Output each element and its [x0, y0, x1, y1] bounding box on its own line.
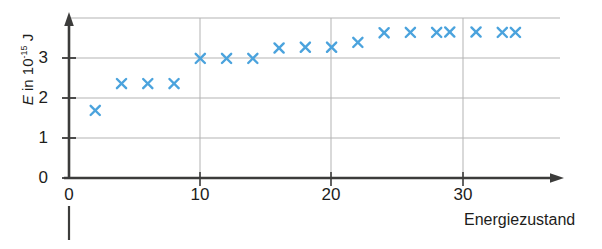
axes: [62, 12, 564, 240]
y-tick-label-0: 0: [28, 169, 48, 186]
data-point-markers: [91, 27, 520, 115]
data-point-marker: [91, 106, 100, 115]
x-tick-label-0: 0: [52, 186, 86, 203]
x-tick-label-10: 10: [183, 186, 217, 203]
data-point-marker: [432, 28, 441, 37]
x-tick-label-20: 20: [314, 186, 348, 203]
x-axis-title: Energiezustand: [464, 212, 575, 228]
energy-state-scatter-chart: 3 2 1 0 0 10 20 30 E in 10-15 J Energiez…: [0, 0, 602, 249]
data-point-marker: [511, 28, 520, 37]
data-point-marker: [406, 28, 415, 37]
data-point-marker: [445, 27, 454, 36]
data-point-marker: [274, 43, 283, 52]
data-point-marker: [117, 79, 126, 88]
x-tick-label-30: 30: [446, 186, 480, 203]
data-point-marker: [380, 28, 389, 37]
data-point-marker: [498, 28, 507, 37]
y-axis-unit: J: [19, 34, 36, 46]
data-point-marker: [301, 43, 310, 52]
y-axis-exponent: -15: [19, 45, 29, 58]
data-point-marker: [143, 79, 152, 88]
y-axis-title: E in 10-15 J: [20, 5, 35, 135]
data-point-marker: [353, 38, 362, 47]
data-point-marker: [169, 79, 178, 88]
y-axis-prefix: in 10: [19, 58, 36, 95]
gridlines: [69, 18, 560, 178]
y-axis-symbol: E: [19, 95, 36, 105]
data-point-marker: [471, 27, 480, 36]
data-point-marker: [327, 43, 336, 52]
